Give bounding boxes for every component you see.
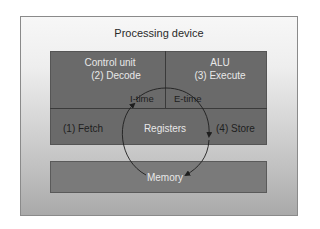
decode-step-label: (2) Decode [60,70,172,81]
execute-step-label: (3) Execute [180,70,260,81]
registers-divider [50,108,267,109]
store-step-label: (4) Store [216,123,255,134]
i-time-label: I-time [130,93,154,104]
diagram-title: Processing device [20,27,298,39]
fetch-step-label: (1) Fetch [63,123,103,134]
control-unit-label: Control unit [60,57,160,68]
e-time-label: E-time [174,93,201,104]
memory-label: Memory [135,172,195,183]
alu-label: ALU [180,57,260,68]
registers-label: Registers [135,123,195,134]
